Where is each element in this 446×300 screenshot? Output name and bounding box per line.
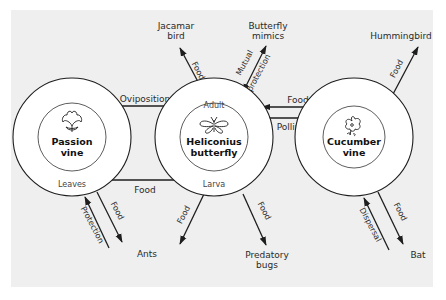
diagram-canvas: Oviposition Food Food Pollination Food M… xyxy=(0,0,446,300)
node-passion-vine: Passion vine Leaves xyxy=(13,78,131,196)
heliconius-title-2: butterfly xyxy=(190,147,238,158)
predatory-label-1: Predatory xyxy=(245,250,289,260)
jacamar-label-1: Jacamar xyxy=(157,21,195,31)
mimics-label-1: Butterfly xyxy=(248,21,288,31)
interaction-diagram: Oviposition Food Food Pollination Food M… xyxy=(0,0,446,300)
heliconius-title-1: Heliconius xyxy=(186,136,242,147)
cucumber-vine-title-1: Cucumber xyxy=(327,136,381,147)
passion-vine-leaves-label: Leaves xyxy=(58,180,86,189)
node-cucumber-vine: Cucumber vine xyxy=(295,78,413,196)
label-oviposition: Oviposition xyxy=(120,94,171,104)
passion-vine-title-1: Passion xyxy=(52,136,93,147)
heliconius-larva-label: Larva xyxy=(203,180,225,189)
jacamar-label-2: bird xyxy=(167,31,184,41)
bat-label: Bat xyxy=(410,250,426,260)
mimics-label-2: mimics xyxy=(252,31,284,41)
predatory-label-2: bugs xyxy=(256,260,278,270)
heliconius-adult-label: Adult xyxy=(204,101,225,110)
hummingbird-label: Hummingbird xyxy=(370,31,431,41)
ants-label: Ants xyxy=(137,249,157,259)
label-leaves-food: Food xyxy=(134,185,156,195)
passion-vine-title-2: vine xyxy=(61,147,84,158)
cucumber-vine-title-2: vine xyxy=(343,147,366,158)
node-heliconius-butterfly: Adult Heliconius butterfly Larva xyxy=(155,78,273,196)
